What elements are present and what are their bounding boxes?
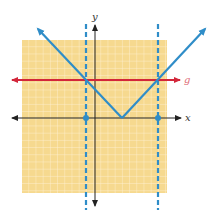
y-axis-label: y [91,11,98,22]
point-marker-left [83,115,89,121]
g-label: g [184,74,190,85]
point-marker-right [155,115,161,121]
x-axis-label: x [185,112,191,123]
graph-figure: y x g [0,0,211,210]
